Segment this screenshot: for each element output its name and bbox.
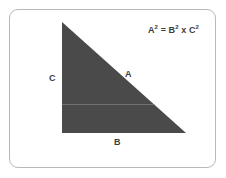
- formula-equals: =: [158, 25, 169, 35]
- formula-base-c: C: [189, 25, 196, 35]
- side-label-c: C: [49, 74, 56, 83]
- side-label-b: B: [114, 138, 121, 147]
- triangle-shape: [62, 22, 186, 133]
- formula-text: A2 = B2 x C2: [148, 26, 199, 35]
- diagram-canvas: A B C A2 = B2 x C2: [0, 0, 226, 178]
- formula-operator: x: [179, 25, 189, 35]
- formula-exp-c: 2: [196, 24, 199, 30]
- side-label-a: A: [125, 70, 132, 79]
- formula-base-a: A: [148, 25, 155, 35]
